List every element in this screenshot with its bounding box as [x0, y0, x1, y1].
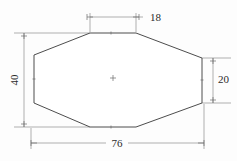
dim-arrow-76-left	[31, 140, 37, 146]
dim-label-40: 40	[8, 74, 20, 86]
dim-arrow-40-bottom	[21, 121, 27, 127]
dim-label-20: 20	[218, 73, 230, 85]
dim-arrow-76-right	[198, 140, 204, 146]
dimension-top-width: 18	[87, 11, 162, 23]
octagon-part-outline	[34, 33, 202, 127]
dim-arrow-20-top	[210, 58, 216, 64]
dimension-bottom-width: 76	[31, 137, 204, 149]
dim-label-18: 18	[150, 11, 162, 23]
dim-label-76: 76	[112, 137, 124, 149]
cad-drawing-svg: 18 40 20	[0, 0, 237, 161]
dimension-right-height: 20	[210, 58, 230, 103]
dim-arrow-20-bottom	[210, 97, 216, 103]
technical-drawing-canvas: 18 40 20	[0, 0, 237, 161]
dim-arrow-40-top	[21, 33, 27, 39]
dimension-left-height: 40	[8, 33, 27, 127]
